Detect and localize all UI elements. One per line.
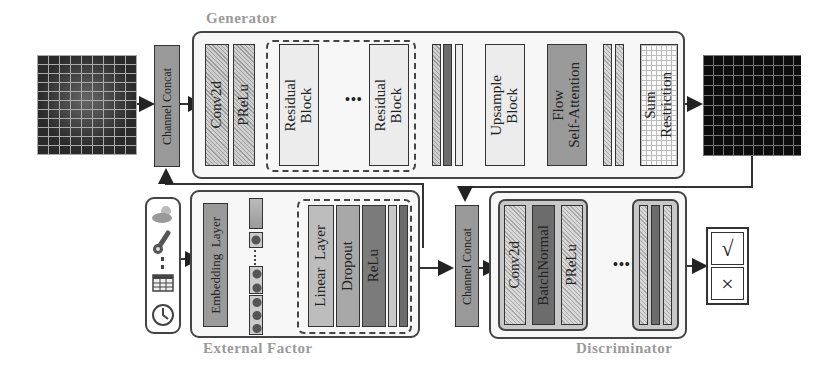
check-icon: √ [721,236,733,262]
real-output: √ [711,232,744,265]
ef-bar-dark [399,205,408,327]
more-inputs-ellipsis [161,257,165,269]
channel-concat-label: Channel Concat [461,228,474,305]
cross-icon: × [721,271,733,297]
linear-label: Linear Layer [313,225,329,307]
generator-conv2d: Conv2d [205,44,229,166]
dropout-label: Dropout [340,241,356,291]
sum-restriction-label: Sum Restriction [643,72,675,138]
generator-channel-concat: Channel Concat [154,45,180,167]
vector-ellipsis [254,250,257,265]
prelu-label: PReLu [236,84,252,126]
residual-ellipsis: ••• [345,92,363,108]
conv2d-label: Conv2d [209,81,225,129]
relu-layer: ReLu [362,205,386,327]
embedding-label: Embedding Layer [209,217,223,314]
generator-title: Generator [206,10,277,27]
residual-block-label: Residual Block [283,79,315,132]
flow-self-attention: Flow Self-Attention [547,44,587,166]
generator-prelu: PReLu [233,44,255,166]
discriminator-ellipsis: ••• [613,257,631,273]
upsample-label: Upsample Block [489,75,521,136]
embedding-layer: Embedding Layer [203,203,228,327]
prelu-label: PReLu [564,244,580,286]
ef-bar-light [388,205,397,327]
channel-concat-label: Channel Concat [161,68,174,145]
external-factor-title: External Factor [203,340,313,357]
discriminator-conv2d: Conv2d [504,205,526,325]
thermometer-icon [152,230,174,256]
generator-bar-hatched-a [603,44,612,166]
generator-bar-light [455,44,463,166]
input-flow-map [37,55,137,155]
disc-bar-c [663,205,672,325]
conv2d-label: Conv2d [507,241,523,289]
embedding-vector-1 [249,198,263,229]
embedding-vector-3 [249,266,263,294]
calendar-icon [152,272,174,292]
residual-block-label: Residual Block [373,79,405,132]
discriminator-batchnorm: BatchNormal [532,205,555,325]
discriminator-channel-concat: Channel Concat [455,205,479,327]
weather-icon [151,203,175,225]
decision-output: √ × [706,227,749,305]
residual-block-1: Residual Block [279,44,319,166]
embedding-vector-4 [249,295,263,335]
disc-bar-b [651,205,660,325]
output-flow-map [703,55,801,156]
generator-bar-hatched [432,44,441,166]
sum-restriction: Sum Restriction [640,44,678,166]
discriminator-title: Discriminator [576,340,672,357]
clock-icon [151,303,175,327]
fake-output: × [711,267,744,300]
upsample-block: Upsample Block [485,44,525,166]
attention-label: Flow Self-Attention [551,62,583,148]
disc-bar-a [639,205,648,325]
generator-bar-dark [443,44,452,166]
batchnorm-label: BatchNormal [536,225,552,306]
relu-label: ReLu [366,249,382,282]
linear-layer: Linear Layer [308,205,334,327]
residual-block-2: Residual Block [369,44,409,166]
dropout-layer: Dropout [336,205,360,327]
embedding-vector-2 [249,232,263,248]
discriminator-prelu: PReLu [561,205,583,325]
generator-bar-hatched-b [615,44,624,166]
